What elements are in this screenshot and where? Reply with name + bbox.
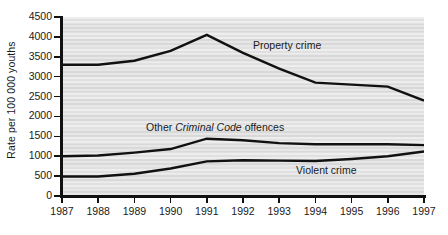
y-tick-label: 3000 (29, 71, 52, 82)
y-tick-label: 3500 (29, 51, 52, 62)
x-tick-label: 1996 (368, 206, 408, 217)
x-tick-mark (315, 197, 317, 203)
x-tick-mark (278, 197, 280, 203)
x-tick-mark (387, 197, 389, 203)
y-tick-label: 4000 (29, 31, 52, 42)
series-label-other-criminal-code: Other Criminal Code offences (146, 122, 284, 133)
plot-area (62, 17, 424, 196)
x-tick-label: 1991 (187, 206, 227, 217)
x-tick-mark (423, 197, 425, 203)
x-tick-mark (61, 197, 63, 203)
series-line-other-criminal-code (62, 139, 424, 157)
y-tick-mark (54, 116, 61, 118)
series-label-property-crime: Property crime (253, 40, 321, 51)
y-axis-line (60, 16, 63, 198)
series-line-property-crime (62, 35, 424, 101)
x-tick-mark (242, 197, 244, 203)
x-tick-label: 1987 (42, 206, 82, 217)
y-tick-mark (54, 56, 61, 58)
x-tick-mark (97, 197, 99, 203)
y-tick-label: 1000 (29, 150, 52, 161)
x-tick-label: 1988 (78, 206, 118, 217)
y-tick-mark (54, 16, 61, 18)
y-axis-title-text: Rate per 100 000 youths (5, 41, 17, 158)
series-lines (62, 17, 424, 196)
y-tick-label: 0 (46, 190, 52, 201)
x-tick-mark (351, 197, 353, 203)
series-label-violent-crime: Violent crime (296, 165, 357, 176)
y-tick-mark (54, 96, 61, 98)
x-tick-label: 1992 (223, 206, 263, 217)
y-tick-mark (54, 136, 61, 138)
x-tick-label: 1989 (114, 206, 154, 217)
y-tick-mark (54, 36, 61, 38)
x-tick-mark (170, 197, 172, 203)
y-tick-label: 1500 (29, 130, 52, 141)
x-tick-label: 1997 (404, 206, 444, 217)
x-tick-mark (134, 197, 136, 203)
y-tick-mark (54, 175, 61, 177)
x-tick-label: 1995 (332, 206, 372, 217)
y-tick-label: 500 (34, 170, 52, 181)
x-tick-label: 1994 (295, 206, 335, 217)
y-tick-mark (54, 76, 61, 78)
y-tick-label: 4500 (29, 11, 52, 22)
x-tick-label: 1993 (259, 206, 299, 217)
y-tick-label: 2000 (29, 110, 52, 121)
y-tick-mark (54, 155, 61, 157)
y-tick-mark (54, 195, 61, 197)
x-tick-mark (206, 197, 208, 203)
y-axis-title: Rate per 100 000 youths (0, 0, 22, 200)
x-tick-label: 1990 (151, 206, 191, 217)
chart-figure: Rate per 100 000 youths 0500100015002000… (0, 0, 448, 235)
y-tick-label: 2500 (29, 91, 52, 102)
